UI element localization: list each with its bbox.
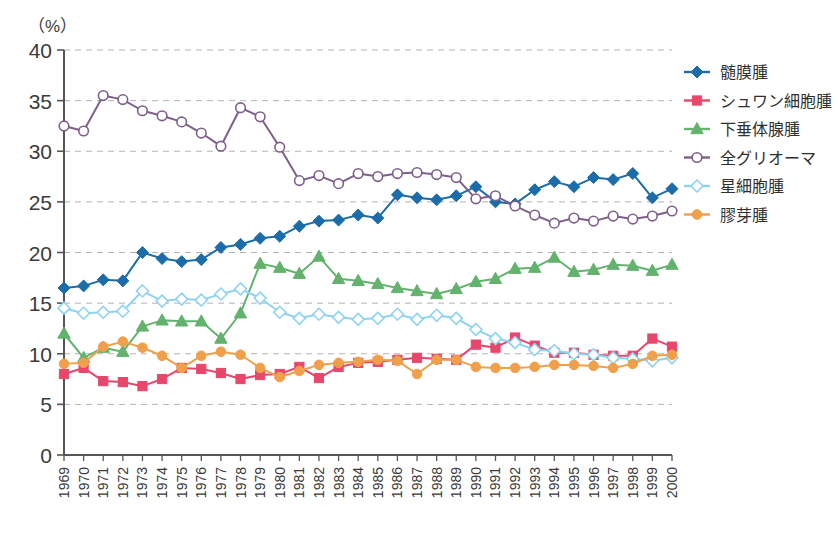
data-point-marker [569, 360, 579, 370]
data-point-marker [450, 190, 462, 202]
data-point-marker [529, 261, 541, 272]
data-point-marker [235, 238, 247, 250]
data-point-marker [216, 347, 226, 357]
data-point-marker [157, 374, 166, 383]
x-tick-label: 1991 [487, 467, 503, 498]
y-tick-label: 0 [40, 444, 52, 467]
data-point-marker [692, 210, 702, 220]
data-point-marker [569, 213, 579, 223]
data-point-marker [648, 211, 658, 221]
data-point-marker [607, 174, 619, 186]
data-point-marker [98, 342, 108, 352]
data-point-marker [99, 376, 108, 385]
data-point-marker [255, 112, 265, 122]
data-point-marker [254, 232, 266, 244]
x-tick-label: 1979 [252, 467, 268, 498]
data-point-marker [196, 128, 206, 138]
series-1 [58, 168, 678, 294]
x-tick-label: 1982 [311, 467, 327, 498]
data-point-marker [118, 95, 128, 105]
x-tick-label: 1974 [154, 467, 170, 498]
gridlines [64, 50, 672, 404]
chart-container: 0510152025303540（%）196919701971197219731… [0, 0, 837, 537]
data-point-marker [216, 368, 225, 377]
data-point-marker [589, 216, 599, 226]
data-point-marker [471, 194, 481, 204]
data-point-marker [293, 220, 305, 232]
x-tick-label: 1972 [115, 467, 131, 498]
data-point-marker [274, 230, 286, 242]
data-point-marker [450, 312, 462, 324]
data-point-marker [373, 172, 383, 182]
data-point-marker [692, 153, 702, 163]
data-point-marker [157, 111, 167, 121]
data-point-marker [648, 351, 658, 361]
x-tick-label: 1980 [272, 467, 288, 498]
data-point-marker [667, 350, 677, 360]
x-tick-labels: 1969197019711972197319741975197619771978… [56, 467, 680, 498]
data-point-marker [491, 363, 501, 373]
y-tick-label: 30 [29, 140, 52, 163]
data-point-marker [334, 358, 344, 368]
data-point-marker [352, 313, 364, 325]
data-point-marker [510, 201, 520, 211]
data-point-marker [530, 362, 540, 372]
x-tick-label: 1983 [331, 467, 347, 498]
data-point-marker [568, 181, 580, 193]
data-point-marker [98, 91, 108, 101]
legend-label: 下垂体腺腫 [720, 121, 800, 138]
data-point-marker [59, 359, 69, 369]
data-point-marker [177, 117, 187, 127]
x-tick-label: 1973 [134, 467, 150, 498]
data-point-marker [588, 172, 600, 184]
data-point-marker [118, 337, 128, 347]
data-point-marker [177, 363, 187, 373]
data-point-marker [510, 363, 520, 373]
x-tick-label: 1993 [527, 467, 543, 498]
data-point-marker [195, 254, 207, 266]
data-point-marker [275, 372, 285, 382]
data-point-marker [530, 210, 540, 220]
legend-label: 膠芽腫 [720, 207, 768, 224]
data-point-marker [215, 288, 227, 300]
data-point-marker [431, 194, 443, 206]
data-point-marker [293, 312, 305, 324]
data-point-marker [117, 275, 129, 287]
data-point-marker [589, 361, 599, 371]
data-point-marker [373, 355, 383, 365]
data-point-marker [333, 214, 345, 226]
data-point-marker [372, 312, 384, 324]
data-point-marker [313, 215, 325, 227]
data-point-marker [58, 282, 70, 294]
y-axis-unit-label: （%） [28, 17, 77, 36]
data-point-marker [176, 256, 188, 268]
data-point-marker [196, 351, 206, 361]
data-point-marker [236, 374, 245, 383]
data-point-marker [412, 168, 422, 178]
x-tick-label: 1994 [546, 467, 562, 498]
x-tick-label: 1990 [468, 467, 484, 498]
x-tick-label: 1969 [56, 467, 72, 498]
data-point-marker [255, 363, 265, 373]
data-point-marker [471, 340, 480, 349]
data-point-marker [136, 247, 148, 259]
data-point-marker [118, 378, 127, 387]
data-point-marker [156, 253, 168, 265]
data-point-marker [353, 357, 363, 367]
data-point-marker [491, 191, 501, 201]
x-tick-label: 1976 [193, 467, 209, 498]
data-point-marker [451, 173, 461, 183]
data-point-marker [78, 280, 90, 292]
x-tick-label: 1992 [507, 467, 523, 498]
x-tick-label: 1975 [174, 467, 190, 498]
data-point-marker [352, 209, 364, 221]
series-line [64, 338, 672, 387]
data-point-marker [58, 327, 70, 338]
data-point-marker [489, 272, 501, 283]
series-line [64, 257, 672, 358]
data-point-marker [215, 241, 227, 253]
x-tick-label: 1999 [644, 467, 660, 498]
x-tick-label: 1985 [370, 467, 386, 498]
data-point-marker [691, 66, 703, 78]
data-point-marker [59, 121, 69, 131]
